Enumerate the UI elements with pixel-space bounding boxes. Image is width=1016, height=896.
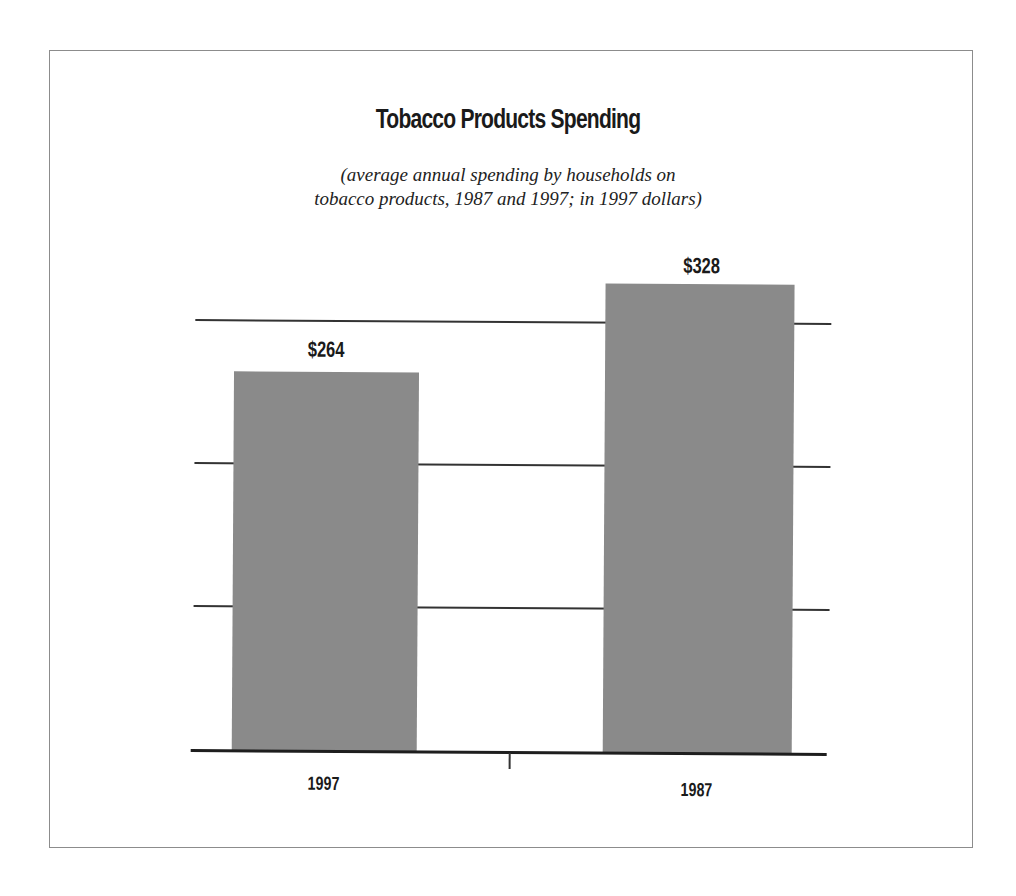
plot-area: $264 $328 1997 1987 bbox=[0, 0, 1016, 896]
bar-1987 bbox=[603, 284, 795, 755]
x-axis-tick bbox=[509, 753, 511, 769]
bar-1997 bbox=[232, 371, 419, 752]
category-label-1987: 1987 bbox=[644, 779, 749, 802]
value-label-1997: $264 bbox=[274, 337, 379, 364]
category-label-1997: 1997 bbox=[271, 773, 376, 796]
value-label-1987: $328 bbox=[649, 253, 754, 280]
